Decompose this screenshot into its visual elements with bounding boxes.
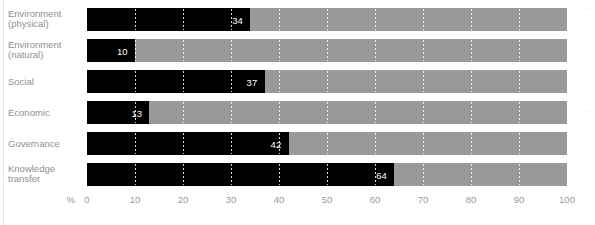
clipped-text-fragment: – — [580, 21, 595, 30]
clipped-text-fragment: – — [580, 38, 595, 47]
bar-chart: Environment(physical)34Environment(natur… [0, 0, 595, 225]
x-axis: %0102030405060708090100 [0, 192, 595, 214]
axis-tick-label: 60 [370, 194, 381, 205]
row-category-line2: transfer [8, 175, 80, 186]
clipped-text-fragment: – — [580, 99, 595, 108]
bar-value-label: 42 [271, 138, 282, 149]
clipped-text-fragment: – — [580, 133, 595, 142]
clipped-text-fragment: – — [580, 150, 595, 159]
gridline [135, 40, 136, 61]
clipped-text-fragment: – — [580, 30, 595, 39]
gridline [183, 102, 184, 123]
row-category-line2: (natural) [8, 51, 80, 62]
bar-track: 34 [87, 8, 567, 31]
row-category-line1: Social [8, 76, 80, 87]
clipped-text-fragment: – — [580, 4, 595, 13]
clipped-text-fragment: – — [580, 56, 595, 65]
axis-tick-label: 100 [559, 194, 575, 205]
axis-tick-label: 0 [84, 194, 89, 205]
bar-gridlines [87, 101, 567, 124]
row-category-label: Environment(natural) [8, 40, 80, 61]
axis-tick-label: 10 [130, 194, 141, 205]
chart-row: Environment(physical)34 [0, 8, 595, 31]
row-category-label: Governance [8, 138, 80, 149]
clipped-text-fragment: – — [580, 116, 595, 125]
gridline [423, 40, 424, 61]
bar-value-label: 37 [247, 76, 258, 87]
axis-tick-label: 90 [514, 194, 525, 205]
row-category-line1: Environment [8, 40, 80, 51]
gridline [279, 71, 280, 92]
clipped-text-fragment: – — [580, 81, 595, 90]
axis-tick-label: 30 [226, 194, 237, 205]
gridline [183, 40, 184, 61]
chart-row: Knowledgetransfer64 [0, 163, 595, 186]
bar-value-label: 34 [232, 14, 243, 25]
gridline [231, 102, 232, 123]
bar-track: 13 [87, 101, 567, 124]
clipped-text-fragment: – — [580, 167, 595, 176]
gridline [471, 133, 472, 154]
gridline [327, 71, 328, 92]
row-category-line1: Knowledge [8, 164, 80, 175]
clipped-text-fragment: – — [580, 90, 595, 99]
row-category-label: Knowledgetransfer [8, 164, 80, 185]
chart-rows: Environment(physical)34Environment(natur… [0, 0, 595, 192]
gridline [279, 9, 280, 30]
bar-track: 10 [87, 39, 567, 62]
clipped-text-fragment: – — [580, 176, 595, 185]
axis-unit-label: % [67, 194, 75, 205]
row-category-line2: (physical) [8, 20, 80, 31]
gridline [519, 164, 520, 185]
chart-row: Social37 [0, 70, 595, 93]
clipped-text-fragment: – — [580, 184, 595, 193]
axis-tick-label: 40 [274, 194, 285, 205]
clipped-text-fragment: – — [580, 47, 595, 56]
gridline [519, 71, 520, 92]
gridline [519, 133, 520, 154]
gridline [471, 71, 472, 92]
gridline [519, 9, 520, 30]
bar-fill [87, 132, 289, 155]
row-category-line1: Governance [8, 138, 80, 149]
gridline [423, 9, 424, 30]
axis-tick-label: 80 [466, 194, 477, 205]
gridline [327, 102, 328, 123]
clipped-text-fragment: – — [580, 64, 595, 73]
gridline [519, 102, 520, 123]
bar-track: 64 [87, 163, 567, 186]
clipped-text-fragment: – — [580, 159, 595, 168]
gridline [375, 71, 376, 92]
clipped-text-fragment: – — [580, 73, 595, 82]
axis-tick-label: 20 [178, 194, 189, 205]
bar-track: 37 [87, 70, 567, 93]
gridline [423, 133, 424, 154]
axis-tick-label: 70 [418, 194, 429, 205]
bar-fill [87, 70, 265, 93]
gridline [375, 133, 376, 154]
gridline [279, 40, 280, 61]
axis-tick-label: 50 [322, 194, 333, 205]
gridline [471, 102, 472, 123]
gridline [519, 40, 520, 61]
gridline [327, 133, 328, 154]
gridline [327, 40, 328, 61]
clipped-text-fragment: – — [580, 13, 595, 22]
gridline [423, 71, 424, 92]
gridline [375, 102, 376, 123]
bar-value-label: 13 [131, 107, 142, 118]
clipped-text-fragment: – — [580, 107, 595, 116]
row-category-line1: Environment [8, 9, 80, 20]
gridline [327, 9, 328, 30]
gridline [375, 40, 376, 61]
bar-fill [87, 39, 135, 62]
row-category-label: Social [8, 76, 80, 87]
bar-track: 42 [87, 132, 567, 155]
gridline [423, 164, 424, 185]
clipped-edge-text: – —– —– —– —– —– —– —– —– —– —– —– —– —–… [580, 4, 595, 204]
gridline [471, 40, 472, 61]
row-category-line1: Economic [8, 107, 80, 118]
gridline [375, 9, 376, 30]
bar-fill [87, 163, 394, 186]
bar-fill [87, 8, 250, 31]
